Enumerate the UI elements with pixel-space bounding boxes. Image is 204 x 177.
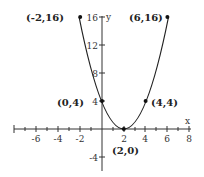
point-marker [78, 15, 82, 19]
y-tick-label: -4 [89, 153, 98, 163]
point-marker [122, 127, 126, 131]
x-tick-labels: -6 -4 -2 2 4 6 8 [32, 134, 193, 144]
x-axis-name: x [185, 116, 190, 126]
x-tick-label: 6 [164, 134, 170, 144]
point-label: (4,4) [151, 97, 178, 109]
y-tick-label: 4 [92, 97, 98, 107]
y-tick-label: 16 [87, 13, 99, 23]
point-label: (2,0) [112, 145, 139, 157]
point-label: (0,4) [57, 97, 84, 109]
point-marker [165, 15, 169, 19]
y-axis-name: y [105, 12, 112, 22]
point-marker [100, 99, 104, 103]
point-label: (6,16) [129, 12, 163, 24]
x-tick-label: 2 [121, 134, 127, 144]
x-tick-label: -6 [32, 134, 41, 144]
y-tick-label: 12 [87, 41, 98, 51]
x-tick-label: 4 [142, 134, 148, 144]
parabola-curve [79, 17, 168, 129]
x-tick-label: -4 [54, 134, 63, 144]
y-axis [99, 16, 105, 171]
x-tick-label: 8 [186, 134, 192, 144]
parabola-graph: -6 -4 -2 2 4 6 8 16 12 8 4 -4 y x (-2,16… [0, 0, 204, 177]
point-label: (-2,16) [26, 12, 64, 24]
x-tick-label: -2 [76, 134, 85, 144]
point-marker [144, 99, 148, 103]
